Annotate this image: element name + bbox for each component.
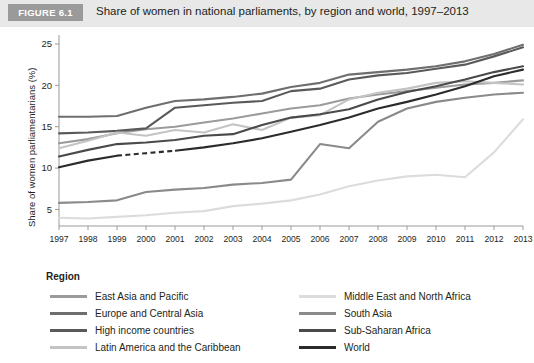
legend-item[interactable]: East Asia and Pacific bbox=[50, 288, 241, 305]
legend-swatch-icon bbox=[50, 329, 87, 332]
legend-swatch-icon bbox=[50, 312, 87, 315]
y-tick-label: 10 bbox=[41, 162, 52, 173]
legend-column-left: East Asia and PacificEurope and Central … bbox=[50, 288, 241, 356]
x-tick-label: 2009 bbox=[397, 234, 416, 244]
legend-item-label: Latin America and the Caribbean bbox=[95, 342, 241, 353]
legend-item[interactable]: Europe and Central Asia bbox=[50, 305, 241, 322]
legend-item-label: East Asia and Pacific bbox=[95, 291, 188, 302]
x-tick-label: 2012 bbox=[484, 234, 503, 244]
legend-column-right: Middle East and North AfricaSouth AsiaSu… bbox=[299, 288, 471, 356]
x-tick-label: 2001 bbox=[165, 234, 184, 244]
series-europe-and-central-asia bbox=[59, 45, 523, 117]
legend-item-label: World bbox=[344, 342, 370, 353]
x-tick-label: 2011 bbox=[456, 234, 475, 244]
legend-item[interactable]: Sub-Saharan Africa bbox=[299, 322, 471, 339]
x-tick-label: 2002 bbox=[194, 234, 213, 244]
x-tick-label: 2003 bbox=[223, 234, 242, 244]
legend-item[interactable]: World bbox=[299, 339, 471, 356]
legend-swatch-icon bbox=[299, 312, 336, 315]
legend-swatch-icon bbox=[50, 295, 87, 298]
figure-title: Share of women in national parliaments, … bbox=[96, 5, 469, 17]
figure-header: FIGURE 6.1 Share of women in national pa… bbox=[0, 0, 534, 27]
y-axis-label-wrap: Share of women parliamentarians (%) bbox=[2, 87, 32, 227]
figure-panel: FIGURE 6.1 Share of women in national pa… bbox=[0, 0, 534, 363]
legend-swatch-icon bbox=[299, 329, 336, 332]
legend-item-label: Sub-Saharan Africa bbox=[344, 325, 431, 336]
y-axis-label: Share of women parliamentarians (%) bbox=[26, 87, 38, 227]
x-tick-label: 2007 bbox=[339, 234, 358, 244]
x-tick-label: 2010 bbox=[426, 234, 445, 244]
legend-title: Region bbox=[46, 271, 80, 282]
legend-item[interactable]: Middle East and North Africa bbox=[299, 288, 471, 305]
line-chart: 5101520251997199819992000200120022003200… bbox=[0, 27, 534, 267]
y-tick-label: 5 bbox=[47, 204, 52, 215]
legend-swatch-icon bbox=[299, 346, 336, 349]
series-sub-saharan-africa bbox=[59, 66, 523, 156]
y-tick-label: 15 bbox=[41, 121, 52, 132]
legend-item-label: Middle East and North Africa bbox=[344, 291, 471, 302]
legend-item-label: South Asia bbox=[344, 308, 392, 319]
legend-item-label: High income countries bbox=[95, 325, 194, 336]
x-tick-label: 2006 bbox=[310, 234, 329, 244]
y-tick-label: 25 bbox=[41, 38, 52, 49]
figure-number-badge: FIGURE 6.1 bbox=[8, 4, 83, 21]
x-tick-label: 2000 bbox=[136, 234, 155, 244]
series-line bbox=[59, 66, 523, 156]
chart-legend: Region East Asia and PacificEurope and C… bbox=[46, 271, 526, 361]
legend-item[interactable]: South Asia bbox=[299, 305, 471, 322]
x-tick-label: 1998 bbox=[78, 234, 97, 244]
legend-item-label: Europe and Central Asia bbox=[95, 308, 203, 319]
legend-swatch-icon bbox=[50, 346, 87, 349]
x-tick-label: 2008 bbox=[368, 234, 387, 244]
series-line bbox=[59, 45, 523, 117]
x-tick-label: 2013 bbox=[513, 234, 532, 244]
x-tick-label: 2005 bbox=[281, 234, 300, 244]
x-tick-label: 2004 bbox=[252, 234, 271, 244]
x-tick-label: 1997 bbox=[49, 234, 68, 244]
legend-swatch-icon bbox=[299, 295, 336, 298]
legend-item[interactable]: High income countries bbox=[50, 322, 241, 339]
y-tick-label: 20 bbox=[41, 80, 52, 91]
legend-item[interactable]: Latin America and the Caribbean bbox=[50, 339, 241, 356]
x-tick-label: 1999 bbox=[107, 234, 126, 244]
